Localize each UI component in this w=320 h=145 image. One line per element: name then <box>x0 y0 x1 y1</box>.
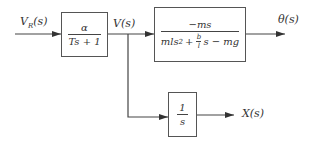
input-signal-label: VR(s) <box>20 15 47 30</box>
input-label-main: V <box>20 15 28 28</box>
input-label-tail: (s) <box>33 15 47 28</box>
pendulum-transfer-function: −ms mls2 + b l s − mg <box>161 19 239 50</box>
actuator-numerator: α <box>79 22 90 34</box>
b-numerator: b <box>197 33 201 41</box>
integrator-block: 1 s <box>168 92 197 137</box>
pendulum-block: −ms mls2 + b l s − mg <box>154 7 246 62</box>
pendulum-denominator: mls2 + b l s − mg <box>161 32 239 50</box>
den-term-s-mg: s − mg <box>203 36 239 47</box>
actuator-block: α Ts + 1 <box>61 12 108 57</box>
v-signal-label: V(s) <box>113 17 135 30</box>
den-term-mls: mls <box>161 36 179 47</box>
den-exponent: 2 <box>179 38 183 46</box>
integrator-transfer-function: 1 s <box>177 102 187 127</box>
integrator-numerator: 1 <box>177 102 187 114</box>
b-over-l-fraction: b l <box>196 33 201 50</box>
x-signal-label: X(s) <box>242 107 264 120</box>
l-denominator: l <box>198 42 200 50</box>
pendulum-numerator: −ms <box>187 19 214 31</box>
integrator-denominator: s <box>180 115 185 127</box>
den-plus: + <box>185 36 193 47</box>
theta-signal-label: θ(s) <box>278 13 299 26</box>
actuator-denominator: Ts + 1 <box>68 35 100 47</box>
actuator-transfer-function: α Ts + 1 <box>68 22 100 47</box>
